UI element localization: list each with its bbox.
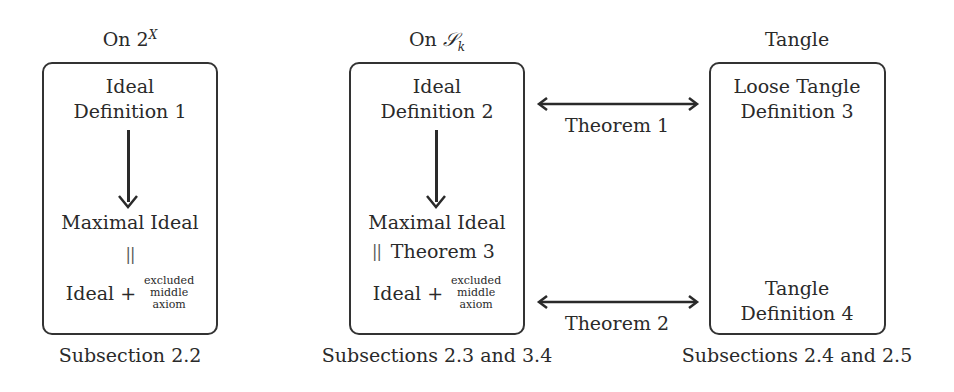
column-title-tangle: Tangle	[765, 28, 829, 50]
axiom-word: axiom	[152, 298, 185, 311]
box2-definition: Definition 2	[381, 99, 494, 123]
ideal-plus-text: Ideal +	[373, 281, 443, 305]
box1-definition: Definition 1	[74, 99, 187, 123]
caption-subsection-2-2: Subsection 2.2	[59, 344, 202, 366]
column-title-sk: On 𝒮k	[409, 28, 465, 54]
box2-ideal: Ideal	[413, 74, 461, 98]
box1-ideal: Ideal	[106, 74, 154, 98]
caption-subsections-2-4-2-5: Subsections 2.4 and 2.5	[682, 344, 912, 366]
column-title-2x: On 2X	[103, 28, 158, 50]
box3-tangle: Tangle	[765, 276, 829, 300]
equals-symbol: ||	[372, 242, 381, 261]
caption-subsections-2-3-3-4: Subsections 2.3 and 3.4	[322, 344, 552, 366]
implies-arrow-line	[127, 130, 130, 202]
double-arrow-icon	[536, 294, 700, 310]
box1-ideal-plus-axiom: Ideal + excluded middle axiom	[66, 275, 194, 311]
implies-arrow-line	[435, 130, 438, 202]
axiom-word: axiom	[459, 298, 492, 311]
title-text: On 2	[103, 28, 149, 50]
title-superscript: X	[149, 28, 158, 42]
title-subscript: k	[458, 40, 465, 54]
box3-definition-4: Definition 4	[741, 301, 854, 325]
theorem-3-label: Theorem 3	[391, 240, 495, 262]
arrow-down-icon	[117, 194, 139, 210]
box1-maximal-ideal: Maximal Ideal	[61, 210, 198, 234]
theorem-2-label: Theorem 2	[565, 311, 669, 335]
box3-loose-tangle: Loose Tangle	[734, 74, 861, 98]
box2-maximal-ideal: Maximal Ideal	[368, 210, 505, 234]
arrow-down-icon	[425, 194, 447, 210]
ideal-plus-text: Ideal +	[66, 281, 136, 305]
axiom-stack: excluded middle axiom	[144, 275, 194, 311]
theorem-1-label: Theorem 1	[565, 113, 669, 137]
equals-symbol: ||	[126, 243, 135, 267]
box2-equals-row: || Theorem 3	[370, 240, 510, 262]
axiom-stack: excluded middle axiom	[451, 275, 501, 311]
double-arrow-icon	[536, 96, 700, 112]
box3-definition-3: Definition 3	[741, 99, 854, 123]
box2-ideal-plus-axiom: Ideal + excluded middle axiom	[373, 275, 501, 311]
title-text: On	[409, 28, 443, 50]
title-script-s: 𝒮	[443, 28, 458, 50]
